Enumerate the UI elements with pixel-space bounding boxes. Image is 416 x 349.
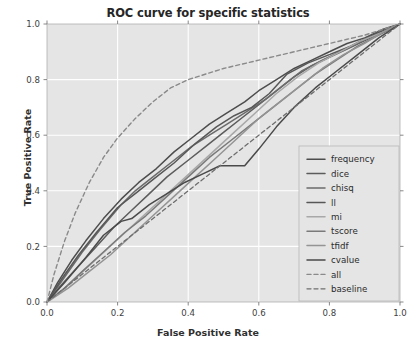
x-tick-label: 0.0	[40, 308, 54, 318]
x-tick-label: 0.6	[252, 308, 266, 318]
x-tick-label: 0.2	[111, 308, 125, 318]
legend-label-all[interactable]: all	[331, 270, 341, 280]
legend-label-frequency[interactable]: frequency	[331, 154, 375, 164]
legend-label-baseline[interactable]: baseline	[331, 284, 367, 294]
x-tick-label: 1.0	[393, 308, 407, 318]
y-tick-label: 1.0	[26, 19, 40, 29]
y-tick-label: 0.0	[26, 297, 40, 307]
legend-label-tscore[interactable]: tscore	[331, 226, 358, 236]
legend-label-mi[interactable]: mi	[331, 212, 342, 222]
plot-canvas: 0.00.20.40.60.81.00.00.20.40.60.81.0 fre…	[0, 0, 416, 349]
chart-legend[interactable]: frequencydicechisqllmitscoretfidfcvaluea…	[299, 146, 399, 301]
legend-label-cvalue[interactable]: cvalue	[331, 255, 360, 265]
legend-label-ll[interactable]: ll	[331, 198, 336, 208]
x-tick-label: 0.8	[323, 308, 337, 318]
legend-label-tfidf[interactable]: tfidf	[331, 241, 349, 251]
x-axis-label: False Positive Rate	[0, 327, 416, 338]
legend-label-chisq[interactable]: chisq	[331, 183, 354, 193]
x-tick-label: 0.4	[181, 308, 195, 318]
y-tick-label: 0.2	[26, 242, 40, 252]
y-axis-label: True Positive Rate	[22, 83, 33, 233]
roc-chart-figure: ROC curve for specific statistics 0.00.2…	[0, 0, 416, 349]
legend-label-dice[interactable]: dice	[331, 169, 349, 179]
